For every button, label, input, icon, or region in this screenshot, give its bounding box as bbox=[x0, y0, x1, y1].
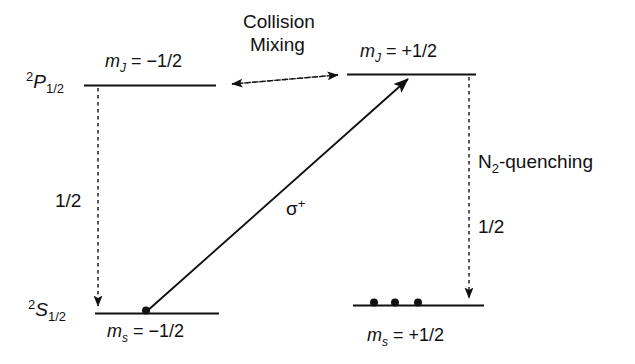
quantum-number-value-upper-right: = +1/2 bbox=[381, 41, 437, 61]
diagram-canvas bbox=[0, 0, 635, 364]
sublevel-label-upper-right: mJ = +1/2 bbox=[360, 42, 437, 64]
term-letter-lower-left: S bbox=[35, 299, 48, 320]
population-dot-lower-right-3 bbox=[414, 299, 422, 307]
population-dot-lower-right-2 bbox=[391, 299, 399, 307]
sigma-glyph: σ bbox=[286, 198, 298, 219]
collision-mixing-label-line1: Collision bbox=[243, 12, 315, 31]
sublevel-label-upper-left: mJ = −1/2 bbox=[105, 52, 182, 74]
quenching-element-subscript: 2 bbox=[492, 161, 499, 176]
sigma-plus-label: σ+ bbox=[286, 197, 305, 218]
quantum-number-m-lower-right: m bbox=[367, 325, 382, 345]
sublevel-label-lower-right: ms = +1/2 bbox=[367, 326, 444, 348]
collision-mixing-label-line2: Mixing bbox=[250, 35, 305, 54]
sigma-sign: + bbox=[298, 196, 306, 211]
quantum-number-m-lower-left: m bbox=[107, 321, 122, 341]
quenching-process-text: -quenching bbox=[499, 151, 593, 172]
excitation-arrow-sigma-plus bbox=[146, 79, 408, 312]
term-letter-upper-left: P bbox=[33, 71, 46, 92]
quantum-number-value-upper-left: = −1/2 bbox=[126, 51, 182, 71]
term-j-lower-left: 1/2 bbox=[48, 309, 66, 324]
term-symbol-upper-left: 2P1/2 bbox=[26, 70, 64, 95]
population-dot-lower-right-1 bbox=[370, 299, 378, 307]
energy-level-diagram: 2P1/2 mJ = −1/2 mJ = +1/2 Collision Mixi… bbox=[0, 0, 635, 364]
sublevel-label-lower-left: ms = −1/2 bbox=[107, 322, 184, 344]
term-j-upper-left: 1/2 bbox=[46, 81, 64, 96]
n2-quenching-label: N2-quenching bbox=[478, 152, 593, 175]
quantum-number-value-lower-left: = −1/2 bbox=[128, 321, 184, 341]
collision-mixing-arrow-left bbox=[232, 75, 338, 84]
quantum-number-m-upper-left: m bbox=[105, 51, 120, 71]
term-symbol-lower-left: 2S1/2 bbox=[28, 298, 66, 323]
quantum-number-value-lower-right: = +1/2 bbox=[388, 325, 444, 345]
branching-ratio-right: 1/2 bbox=[478, 217, 504, 236]
quantum-number-m-upper-right: m bbox=[360, 41, 375, 61]
branching-ratio-left: 1/2 bbox=[55, 191, 81, 210]
population-dot-lower-left bbox=[142, 307, 150, 315]
quenching-element-symbol: N bbox=[478, 151, 492, 172]
